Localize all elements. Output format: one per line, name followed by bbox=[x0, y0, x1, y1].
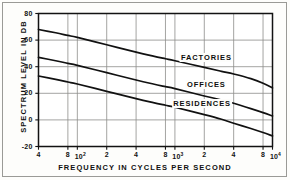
x-tick-label: 8 bbox=[259, 151, 267, 158]
x-tick-label: 104 bbox=[268, 151, 284, 160]
x-tick-label: 4 bbox=[132, 151, 140, 158]
x-tick-label: 102 bbox=[72, 151, 88, 160]
y-axis-title: SPECTRUM LEVEL IN DB bbox=[19, 2, 28, 152]
y-tick-label: 80 bbox=[13, 10, 33, 17]
x-tick-label: 2 bbox=[200, 151, 208, 158]
curve-label-factories: FACTORIES bbox=[180, 53, 233, 62]
y-tick-label: 60 bbox=[13, 36, 33, 43]
curve-label-offices: OFFICES bbox=[186, 80, 227, 89]
curve-label-residences: RESIDENCES bbox=[172, 99, 232, 108]
y-tick-label: -20 bbox=[13, 143, 33, 150]
x-tick-label: 4 bbox=[230, 151, 238, 158]
x-tick-label: 2 bbox=[103, 151, 111, 158]
plot-area bbox=[0, 0, 290, 180]
y-tick-label: 40 bbox=[13, 63, 33, 70]
x-axis-title: FREQUENCY IN CYCLES PER SECOND bbox=[0, 163, 290, 172]
plot-background bbox=[39, 14, 273, 147]
y-tick-label: 0 bbox=[13, 116, 33, 123]
x-tick-label: 103 bbox=[170, 151, 186, 160]
x-tick-label: 4 bbox=[35, 151, 43, 158]
noise-spectrum-chart-figure: SPECTRUM LEVEL IN DB FREQUENCY IN CYCLES… bbox=[0, 0, 290, 180]
x-tick-label: 8 bbox=[64, 151, 72, 158]
y-tick-label: 20 bbox=[13, 89, 33, 96]
x-tick-label: 8 bbox=[161, 151, 169, 158]
